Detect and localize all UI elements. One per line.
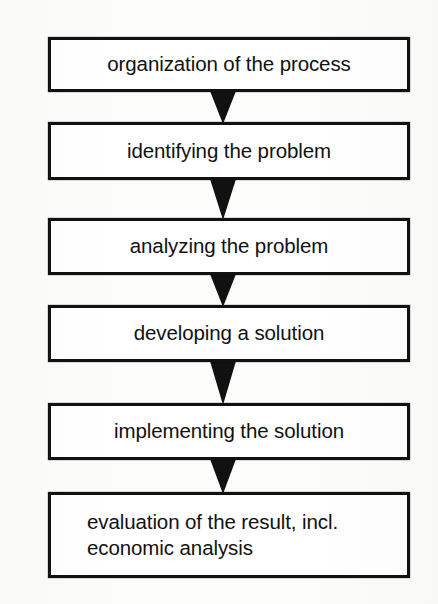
flow-node-evaluation: evaluation of the result, incl. economic…	[48, 492, 410, 578]
arrow-down-icon	[209, 90, 237, 124]
flow-node-analyzing: analyzing the problem	[48, 218, 410, 275]
flow-arrow-4	[209, 360, 237, 405]
flow-node-identifying: identifying the problem	[48, 122, 410, 180]
arrow-down-icon	[209, 178, 237, 220]
flowchart-diagram: organization of the process identifying …	[0, 0, 438, 604]
flow-arrow-3	[209, 273, 237, 307]
flow-node-label: organization of the process	[99, 51, 358, 77]
flow-arrow-5	[209, 458, 237, 494]
flow-node-developing: developing a solution	[48, 305, 410, 362]
flow-arrow-1	[209, 90, 237, 124]
flow-node-implementing: implementing the solution	[48, 403, 410, 460]
flow-node-label: developing a solution	[126, 320, 333, 346]
flow-node-label: identifying the problem	[119, 138, 339, 164]
flow-arrow-2	[209, 178, 237, 220]
flow-node-label: implementing the solution	[106, 418, 352, 444]
arrow-down-icon	[209, 273, 237, 307]
flow-node-label: evaluation of the result, incl. economic…	[51, 509, 338, 561]
arrow-down-icon	[209, 458, 237, 494]
flow-node-organization: organization of the process	[48, 37, 410, 92]
arrow-down-icon	[209, 360, 237, 405]
flow-node-label: analyzing the problem	[122, 233, 336, 259]
